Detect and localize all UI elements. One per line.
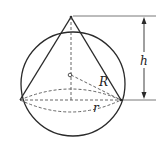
apex-point [70, 16, 73, 19]
sphere-center-point [68, 73, 72, 77]
sphere-outline [21, 32, 125, 136]
h-arrow-bottom-icon [142, 92, 147, 99]
h-arrow-top-icon [142, 17, 147, 24]
label-h: h [140, 54, 148, 68]
base-ellipse-back [20, 89, 121, 100]
cone-in-sphere-diagram: h R r [0, 0, 166, 149]
base-right-point [120, 99, 123, 102]
label-R: R [98, 75, 108, 89]
base-ellipse-front [20, 100, 121, 112]
